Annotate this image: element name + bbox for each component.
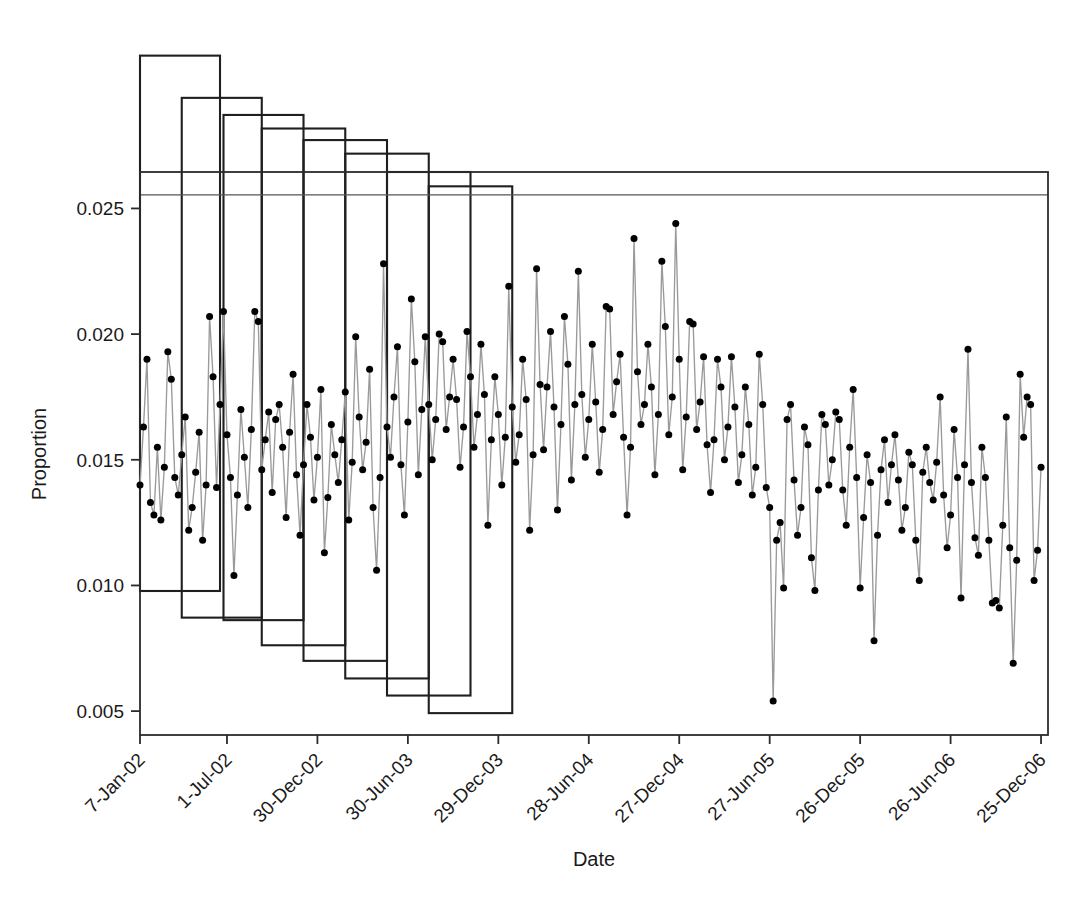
data-point bbox=[801, 424, 808, 431]
data-point bbox=[832, 409, 839, 416]
data-point bbox=[728, 353, 735, 360]
data-point bbox=[895, 476, 902, 483]
data-point bbox=[540, 446, 547, 453]
data-point bbox=[182, 414, 189, 421]
data-point bbox=[196, 429, 203, 436]
data-point bbox=[331, 451, 338, 458]
data-point bbox=[408, 295, 415, 302]
data-point bbox=[693, 426, 700, 433]
proportion-time-series-chart: 0.0050.0100.0150.0200.025 7-Jan-021-Jul-… bbox=[0, 0, 1086, 899]
data-point bbox=[192, 469, 199, 476]
data-point bbox=[777, 519, 784, 526]
x-tick-label: 26-Jun-06 bbox=[884, 749, 959, 824]
data-point bbox=[891, 431, 898, 438]
data-point bbox=[1024, 393, 1031, 400]
data-point bbox=[363, 439, 370, 446]
x-tick-label: 7-Jan-02 bbox=[81, 749, 149, 817]
data-point bbox=[568, 476, 575, 483]
data-point bbox=[1003, 414, 1010, 421]
x-axis-title: Date bbox=[573, 848, 615, 870]
chart-canvas: 0.0050.0100.0150.0200.025 7-Jan-021-Jul-… bbox=[0, 0, 1086, 899]
data-point bbox=[683, 414, 690, 421]
data-point bbox=[679, 466, 686, 473]
data-point bbox=[787, 401, 794, 408]
data-point bbox=[300, 461, 307, 468]
data-point bbox=[488, 436, 495, 443]
data-point bbox=[373, 567, 380, 574]
data-point bbox=[537, 381, 544, 388]
data-point bbox=[672, 220, 679, 227]
data-point bbox=[759, 401, 766, 408]
data-point bbox=[307, 434, 314, 441]
data-point bbox=[220, 308, 227, 315]
x-tick-label: 30-Dec-02 bbox=[249, 749, 327, 827]
data-point bbox=[711, 436, 718, 443]
data-point bbox=[791, 476, 798, 483]
data-point bbox=[721, 456, 728, 463]
data-point bbox=[255, 318, 262, 325]
data-point bbox=[213, 484, 220, 491]
data-point bbox=[450, 356, 457, 363]
data-point bbox=[464, 328, 471, 335]
data-point bbox=[884, 499, 891, 506]
data-point bbox=[919, 469, 926, 476]
data-point bbox=[265, 409, 272, 416]
data-point bbox=[930, 497, 937, 504]
data-point bbox=[345, 517, 352, 524]
data-point bbox=[898, 527, 905, 534]
data-point bbox=[154, 444, 161, 451]
data-point bbox=[811, 587, 818, 594]
data-point bbox=[467, 373, 474, 380]
data-point bbox=[1017, 371, 1024, 378]
data-point bbox=[964, 346, 971, 353]
data-point bbox=[143, 356, 150, 363]
y-tick-label: 0.020 bbox=[76, 324, 124, 345]
y-tick-label: 0.005 bbox=[76, 701, 124, 722]
y-tick-label: 0.015 bbox=[76, 450, 124, 471]
data-point bbox=[867, 479, 874, 486]
data-point bbox=[457, 464, 464, 471]
data-point bbox=[624, 512, 631, 519]
data-point bbox=[244, 504, 251, 511]
data-point bbox=[335, 479, 342, 486]
data-point bbox=[766, 504, 773, 511]
data-point bbox=[203, 481, 210, 488]
data-point bbox=[279, 444, 286, 451]
data-point bbox=[384, 424, 391, 431]
data-point bbox=[328, 421, 335, 428]
data-point bbox=[262, 436, 269, 443]
data-point bbox=[502, 434, 509, 441]
data-point bbox=[839, 486, 846, 493]
data-point bbox=[874, 532, 881, 539]
data-point bbox=[533, 265, 540, 272]
data-point bbox=[992, 597, 999, 604]
data-point bbox=[370, 504, 377, 511]
data-point bbox=[470, 444, 477, 451]
data-point bbox=[241, 454, 248, 461]
data-point bbox=[446, 393, 453, 400]
data-point bbox=[404, 419, 411, 426]
data-point bbox=[634, 368, 641, 375]
data-point bbox=[850, 386, 857, 393]
data-point bbox=[411, 358, 418, 365]
y-tick-label: 0.010 bbox=[76, 575, 124, 596]
data-point bbox=[418, 406, 425, 413]
data-point bbox=[185, 527, 192, 534]
data-point bbox=[140, 424, 147, 431]
data-point bbox=[484, 522, 491, 529]
data-point bbox=[530, 451, 537, 458]
x-tick-label: 27-Dec-04 bbox=[610, 749, 688, 827]
data-point bbox=[968, 479, 975, 486]
data-point bbox=[1010, 660, 1017, 667]
data-point bbox=[881, 436, 888, 443]
data-point bbox=[707, 489, 714, 496]
data-point bbox=[1034, 547, 1041, 554]
data-point bbox=[912, 537, 919, 544]
data-point bbox=[665, 431, 672, 438]
data-point bbox=[818, 411, 825, 418]
x-tick-label: 1-Jul-02 bbox=[172, 749, 235, 812]
data-point bbox=[857, 584, 864, 591]
data-point bbox=[864, 451, 871, 458]
data-point bbox=[137, 481, 144, 488]
data-point bbox=[564, 361, 571, 368]
